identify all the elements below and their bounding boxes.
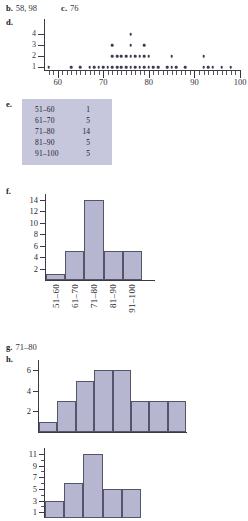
histogram-f-bar (123, 251, 142, 280)
histogram-f-x-tick-label: 71–80 (89, 284, 99, 308)
frequency-interval-cell: 61–70 (22, 115, 72, 126)
answer-e-label: e. (6, 99, 12, 109)
histogram-f-bar (104, 251, 123, 280)
histogram-h-bar (39, 422, 57, 432)
answer-b-text: 58, 98 (16, 3, 37, 13)
dotplot-x-minor-tick (126, 71, 127, 75)
dotplot-x-minor-tick (117, 71, 118, 75)
histogram-h-bar (76, 381, 94, 432)
dotplot-dot (129, 55, 132, 58)
answer-c: c. 76 (61, 3, 78, 13)
histogram-h-bar (94, 370, 112, 432)
dotplot-x-minor-tick (71, 71, 72, 75)
dotplot-x-minor-tick (49, 71, 50, 75)
frequency-interval-cell: 91–100 (22, 148, 72, 159)
dotplot-x-minor-tick (204, 71, 205, 75)
histogram-h-y-tick (33, 370, 38, 371)
histogram-f-y-tick (40, 246, 45, 247)
dotplot-dot (111, 66, 114, 69)
histogram-bottom-y-tick-label: 11 (22, 450, 37, 458)
dotplot-y-tick-label: 1 (27, 63, 36, 71)
frequency-table-row: 51–601 (22, 104, 112, 115)
dotplot-x-minor-tick (67, 71, 68, 75)
dotplot-dot (70, 66, 73, 69)
dotplot-dot (220, 66, 223, 69)
dotplot-x-minor-tick (131, 71, 132, 75)
dotplot-dot (93, 66, 96, 69)
histogram-h-chart: 246 (22, 358, 187, 440)
histogram-bottom-y-minor-tick (41, 460, 44, 461)
dotplot-y-axis (44, 19, 45, 70)
dotplot-x-minor-tick (94, 71, 95, 75)
histogram-f-y-tick (40, 234, 45, 235)
dotplot-dot (120, 55, 123, 58)
histogram-bottom-y-tick (39, 489, 44, 490)
histogram-h-bar (113, 370, 131, 432)
frequency-count-cell: 5 (72, 137, 112, 148)
dotplot-dot (88, 66, 91, 69)
histogram-bottom-y-tick-label: 3 (22, 497, 37, 505)
dotplot-x-minor-tick (217, 71, 218, 75)
frequency-count-cell: 1 (72, 104, 112, 115)
histogram-bottom-y-tick-label: 1 (22, 508, 37, 516)
histogram-bottom-bar (83, 454, 102, 518)
dotplot-dot (202, 66, 205, 69)
dotplot-x-minor-tick (153, 71, 154, 75)
answer-f-label: f. (6, 186, 11, 196)
dotplot-x-minor-tick (140, 71, 141, 75)
dotplot-x-minor-tick (144, 71, 145, 75)
dotplot-dot (170, 55, 173, 58)
dotplot-x-minor-tick (235, 71, 236, 75)
dotplot-x-tick-label: 80 (145, 77, 154, 87)
dotplot-dot (47, 66, 50, 69)
dotplot-x-minor-tick (208, 71, 209, 75)
frequency-count-cell: 5 (72, 115, 112, 126)
histogram-f-x-tick-label: 81–90 (108, 284, 118, 308)
frequency-interval-cell: 71–80 (22, 126, 72, 137)
dotplot-x-minor-tick (158, 71, 159, 75)
dotplot-dot (230, 66, 233, 69)
histogram-f-y-tick-label: 8 (21, 230, 38, 238)
dotplot-x-minor-tick (112, 71, 113, 75)
dotplot-dot (125, 66, 128, 69)
frequency-interval-cell: 51–60 (22, 104, 72, 115)
dotplot-x-minor-tick (108, 71, 109, 75)
answer-g-text: 71–80 (15, 342, 36, 352)
histogram-bottom-bars (45, 448, 141, 518)
histogram-bottom-y-tick (39, 454, 44, 455)
dotplot-dot (116, 66, 119, 69)
histogram-f-x-tick-label: 91–100 (127, 284, 137, 313)
histogram-bottom-y-tick-label: 7 (22, 473, 37, 481)
dotplot-dot (138, 66, 141, 69)
histogram-bottom-bar (45, 501, 64, 519)
histogram-h-y-tick-label: 6 (22, 366, 31, 374)
dotplot-dot (184, 66, 187, 69)
answer-d-label: d. (6, 17, 13, 27)
dotplot-dot (207, 66, 210, 69)
answer-b-label: b. (6, 3, 13, 13)
histogram-f-y-tick-label: 12 (21, 207, 38, 215)
dotplot-y-tick (38, 34, 44, 35)
dotplot-y-tick (38, 67, 44, 68)
dotplot-x-minor-tick (53, 71, 54, 75)
dotplot-dot (79, 66, 82, 69)
histogram-h-bar (149, 401, 167, 432)
histogram-bottom-y-minor-tick (41, 495, 44, 496)
dotplot-dot (157, 66, 160, 69)
dotplot-x-minor-tick (185, 71, 186, 75)
dotplot-dot (129, 66, 132, 69)
dotplot-dot (111, 55, 114, 58)
dotplot-x-minor-tick (135, 71, 136, 75)
dotplot-dot (138, 55, 141, 58)
dotplot-dot (107, 66, 110, 69)
dotplot-dot (102, 66, 105, 69)
frequency-table-grid: 51–60161–70571–801481–90591–1005 (22, 104, 112, 159)
dotplot-dot (97, 66, 100, 69)
dot-plot-chart: 1234 60708090100 (27, 19, 242, 85)
dotplot-x-minor-tick (181, 71, 182, 75)
histogram-bottom-y-minor-tick (41, 506, 44, 507)
dotplot-dot (134, 55, 137, 58)
dotplot-x-minor-tick (99, 71, 100, 75)
histogram-h-y-tick-label: 2 (22, 407, 31, 415)
dotplot-dot (143, 44, 146, 47)
